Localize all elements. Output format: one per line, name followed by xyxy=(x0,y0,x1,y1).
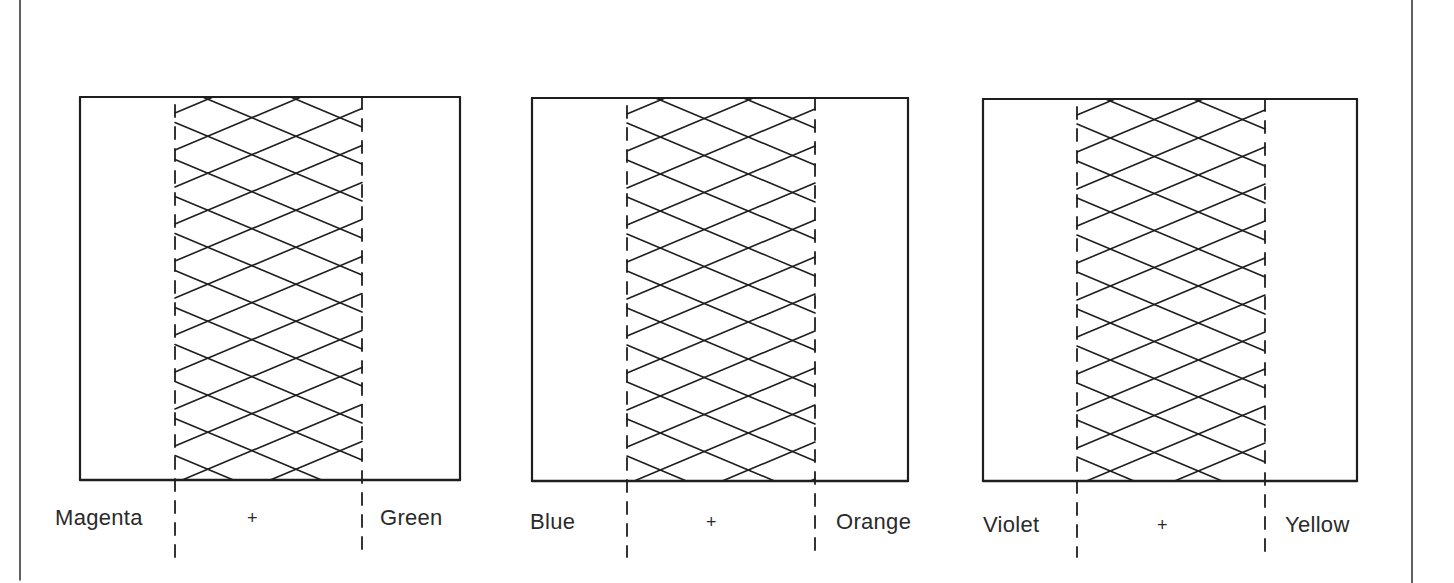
panel-3-hatch-ascending xyxy=(1087,406,1265,481)
panel-2-hatch-ascending xyxy=(627,98,665,114)
panel-3-hatch-ascending xyxy=(1077,332,1265,411)
panel-1-hatch-descending xyxy=(175,233,362,312)
panel-3-hatch-descending xyxy=(1077,346,1265,425)
panel-1-hatch-ascending xyxy=(175,108,362,187)
panel-3-hatch-ascending xyxy=(1077,295,1265,374)
crosshatch-diagram xyxy=(0,0,1454,583)
panel-1-hatch-descending xyxy=(175,122,362,201)
panel-2-hatch-descending xyxy=(627,197,815,276)
label-magenta: Magenta xyxy=(55,507,143,529)
panel-3-hatch-descending xyxy=(1077,198,1265,277)
label-violet: Violet xyxy=(983,514,1039,536)
panel-2-hatch-ascending xyxy=(627,294,815,373)
panel-1-hatch-descending xyxy=(175,159,362,238)
panel-3-hatch-descending xyxy=(1077,383,1265,462)
panel-3-hatch-ascending xyxy=(1077,99,1115,115)
panel-1-hatch-descending xyxy=(175,270,362,349)
panel-3-hatch-ascending xyxy=(1077,184,1265,263)
label-blue: Blue xyxy=(530,511,575,533)
panel-2-hatch-ascending xyxy=(722,442,815,481)
panel-3-hatch-descending xyxy=(1077,272,1265,351)
panel-3-hatch-descending xyxy=(1105,99,1265,166)
label-orange: Orange xyxy=(836,511,911,533)
panel-1-hatch-descending xyxy=(175,455,233,480)
complementary-colors-figure: Magenta + Green Blue + Orange Violet + Y… xyxy=(0,0,1454,583)
panel-1-hatch-ascending xyxy=(175,145,362,224)
panel-1-hatch-ascending xyxy=(270,441,362,480)
panel-2-hatch-descending xyxy=(627,160,815,239)
panel-3-hatch-descending xyxy=(1077,309,1265,388)
panel-1-hatch-ascending xyxy=(175,330,362,409)
panel-1-hatch-descending xyxy=(291,97,362,127)
panel-1-hatch-ascending xyxy=(182,404,362,480)
panel-2-hatch-descending xyxy=(627,308,815,387)
panel-2-hatch-descending xyxy=(655,98,815,165)
panel-3-hatch-descending xyxy=(1077,420,1222,481)
panel-2-hatch-descending xyxy=(627,271,815,350)
panel-1-hatch-descending xyxy=(175,307,362,386)
panel-1-hatch-descending xyxy=(175,418,322,480)
plus-sign-1: + xyxy=(247,509,258,527)
panel-1-hatch-descending xyxy=(175,381,362,460)
panel-2-hatch-descending xyxy=(627,419,775,481)
panel-2-hatch-ascending xyxy=(634,405,815,481)
panel-2-hatch-ascending xyxy=(627,146,815,225)
panel-2-hatch-descending xyxy=(627,382,815,461)
panel-1-hatch-descending xyxy=(175,196,362,275)
panel-3-hatch-descending xyxy=(1077,457,1134,481)
panel-1-hatch-descending xyxy=(175,344,362,423)
panel-2-hatch-descending xyxy=(627,345,815,424)
panel-3-hatch-descending xyxy=(1077,124,1265,203)
panel-3-hatch-ascending xyxy=(1077,258,1265,337)
panel-1-hatch-ascending xyxy=(175,182,362,261)
panel-1-hatch-ascending xyxy=(175,293,362,372)
panel-3-hatch-ascending xyxy=(1175,443,1265,481)
panel-1-hatch-descending xyxy=(202,97,362,164)
panel-1-hatch-ascending xyxy=(175,367,362,446)
panel-2-hatch-ascending xyxy=(627,183,815,262)
plus-sign-2: + xyxy=(706,513,717,531)
label-yellow: Yellow xyxy=(1285,514,1350,536)
panel-2-hatch-ascending xyxy=(627,220,815,299)
panel-2-hatch-ascending xyxy=(627,331,815,410)
panel-3-hatch-ascending xyxy=(1077,110,1265,189)
panel-1-hatch-ascending xyxy=(175,256,362,335)
panel-3-hatch-ascending xyxy=(1077,369,1265,448)
panel-2-hatch-ascending xyxy=(627,109,815,188)
panel-3-hatch-descending xyxy=(1077,235,1265,314)
panel-2-hatch-ascending xyxy=(627,368,815,447)
panel-3-hatch-descending xyxy=(1077,161,1265,240)
label-green: Green xyxy=(380,507,443,529)
panel-2-hatch-descending xyxy=(627,234,815,313)
panel-1-hatch-ascending xyxy=(175,97,213,113)
panel-1-hatch-ascending xyxy=(175,219,362,298)
panel-3-hatch-ascending xyxy=(1077,147,1265,226)
panel-3-hatch-ascending xyxy=(1077,221,1265,300)
panel-2-hatch-descending xyxy=(627,456,686,481)
panel-2-hatch-ascending xyxy=(627,257,815,336)
plus-sign-3: + xyxy=(1157,516,1168,534)
panel-2-hatch-descending xyxy=(627,123,815,202)
